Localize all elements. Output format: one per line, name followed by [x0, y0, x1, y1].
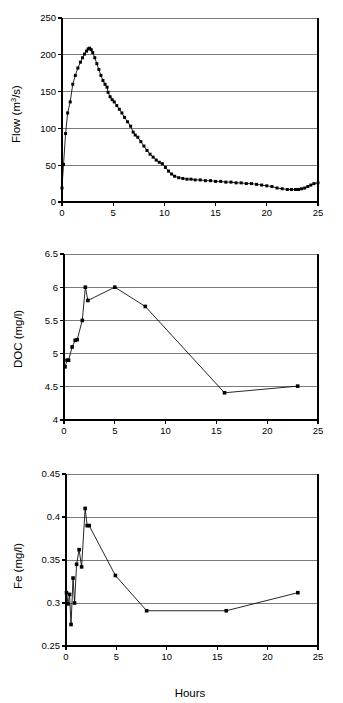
y-tick-label: 0: [51, 196, 56, 207]
data-point-marker: [235, 181, 238, 184]
data-point-marker: [71, 576, 75, 580]
doc-chart-svg: 44.555.566.50510152025 DOC (mg/l): [0, 234, 343, 452]
fe-x-axis-title: Hours: [175, 687, 206, 699]
data-point-marker: [134, 134, 137, 137]
data-point-marker: [296, 384, 300, 388]
data-point-marker: [281, 187, 284, 190]
data-point-marker: [317, 181, 320, 184]
data-point-marker: [177, 176, 180, 179]
data-point-marker: [161, 162, 164, 165]
data-point-marker: [214, 180, 217, 183]
data-point-marker: [75, 338, 79, 342]
x-tick-label: 10: [162, 651, 173, 662]
data-point-marker: [142, 145, 145, 148]
fe-series-line: [67, 508, 298, 624]
data-point-marker: [62, 163, 65, 166]
data-point-marker: [64, 132, 67, 135]
data-point-marker: [71, 83, 74, 86]
data-point-marker: [123, 116, 126, 119]
x-tick-label: 0: [59, 207, 64, 218]
data-point-marker: [93, 56, 96, 59]
data-point-marker: [309, 184, 312, 187]
y-tick-label: 6: [53, 282, 58, 293]
data-point-marker: [136, 136, 139, 139]
data-point-marker: [300, 187, 303, 190]
x-tick-label: 10: [160, 425, 171, 436]
data-point-marker: [199, 178, 202, 181]
flow-axes: [62, 18, 318, 202]
y-tick-label: 0.35: [42, 554, 61, 565]
data-point-marker: [95, 62, 98, 65]
data-point-marker: [229, 181, 232, 184]
data-point-marker: [158, 161, 161, 164]
data-point-marker: [181, 177, 184, 180]
data-point-marker: [132, 131, 135, 134]
data-point-marker: [84, 285, 88, 289]
data-point-marker: [75, 563, 79, 567]
data-point-marker: [145, 149, 148, 152]
data-point-marker: [290, 188, 293, 191]
data-point-marker: [312, 182, 315, 185]
stacked-time-series-figure: 0501001502002500510152025 Flow (m3/s) 44…: [0, 0, 343, 703]
data-point-marker: [155, 159, 158, 162]
data-point-marker: [66, 111, 69, 114]
data-point-marker: [63, 365, 67, 369]
data-point-marker: [170, 173, 173, 176]
x-tick-label: 20: [262, 651, 273, 662]
data-point-marker: [145, 609, 149, 613]
data-point-marker: [79, 61, 82, 64]
data-point-marker: [240, 181, 243, 184]
data-point-marker: [306, 185, 309, 188]
fe-gridlines: [66, 474, 318, 603]
data-point-marker: [80, 319, 84, 323]
data-point-marker: [80, 565, 84, 569]
data-point-marker: [190, 178, 193, 181]
data-point-marker: [126, 120, 129, 123]
data-point-marker: [245, 182, 248, 185]
data-point-marker: [173, 175, 176, 178]
data-point-marker: [83, 53, 86, 56]
data-point-marker: [91, 51, 94, 54]
data-point-marker: [129, 125, 132, 128]
y-tick-label: 100: [40, 123, 56, 134]
y-tick-label: 0.4: [47, 511, 60, 522]
data-point-marker: [114, 574, 118, 578]
data-point-marker: [296, 591, 300, 595]
fe-series: [65, 507, 300, 627]
data-point-marker: [224, 181, 227, 184]
flow-chart-svg: 0501001502002500510152025 Flow (m3/s): [0, 4, 343, 232]
data-point-marker: [194, 178, 197, 181]
x-tick-label: 25: [313, 425, 324, 436]
x-tick-label: 20: [262, 425, 273, 436]
x-tick-label: 20: [262, 207, 273, 218]
data-point-marker: [73, 601, 77, 605]
data-point-marker: [149, 153, 152, 156]
flow-series: [61, 47, 320, 191]
data-point-marker: [167, 170, 170, 173]
data-point-marker: [87, 524, 91, 528]
data-point-marker: [69, 623, 73, 627]
x-tick-label: 25: [313, 207, 324, 218]
data-point-marker: [67, 358, 71, 362]
data-point-marker: [76, 67, 79, 70]
fe-chart-svg: 0.250.30.350.40.450510152025 Fe (mg/l) H…: [0, 454, 343, 703]
data-point-marker: [223, 391, 227, 395]
y-tick-label: 5.5: [45, 315, 58, 326]
y-tick-label: 5: [53, 348, 58, 359]
data-point-marker: [69, 100, 72, 103]
data-point-marker: [77, 548, 81, 552]
data-point-marker: [204, 179, 207, 182]
y-tick-label: 0.3: [47, 597, 60, 608]
flow-gridlines: [62, 18, 318, 165]
data-point-marker: [303, 187, 306, 190]
y-tick-label: 4.5: [45, 381, 58, 392]
fe-y-axis-title: Fe (mg/l): [12, 543, 24, 589]
data-point-marker: [68, 593, 72, 597]
flow-series-line: [62, 48, 318, 189]
data-point-marker: [104, 83, 107, 86]
data-point-marker: [250, 182, 253, 185]
data-point-marker: [99, 74, 102, 77]
data-point-marker: [61, 187, 64, 190]
y-tick-label: 0.25: [42, 640, 61, 651]
fe-tick-labels: 0.250.30.350.40.450510152025: [42, 468, 324, 662]
